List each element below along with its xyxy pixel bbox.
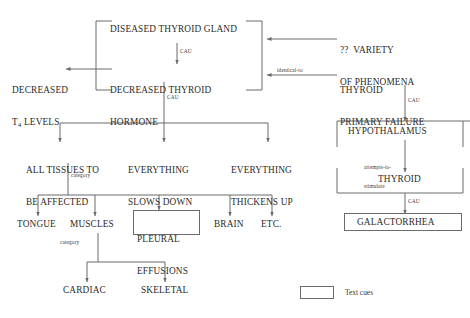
edge-label-attempts-line2: stimulate — [364, 183, 391, 189]
edge-label-category-tissues: category — [71, 172, 90, 178]
node-decreased-thyroid-hormone: DECREASED THYROID HORMONE — [110, 64, 211, 149]
edge-label-category-muscles: category — [60, 239, 79, 245]
node-muscles: MUSCLES — [70, 219, 114, 230]
node-t4-levels-word: LEVELS — [22, 117, 60, 127]
node-tongue: TONGUE — [17, 219, 56, 230]
node-thyroid-failure-line1: THYROID — [340, 85, 425, 96]
node-etc: ETC. — [261, 219, 281, 230]
edge-label-attempts-to-stimulate: attempts-to- stimulate — [364, 152, 391, 202]
node-decreased-t4-line2: T4 LEVELS — [12, 117, 68, 129]
node-all-tissues-line2: BE AFFECTED — [26, 197, 99, 208]
node-pleural-effusions-line2: EFFUSIONS — [137, 266, 188, 277]
node-everything-thickens-line2: THICKENS UP — [231, 197, 293, 208]
node-everything-slows-line1: EVERYTHING — [128, 165, 192, 176]
node-decreased-thyroid-hormone-line2: HORMONE — [110, 117, 211, 128]
node-decreased-t4-levels: DECREASED T4 LEVELS — [12, 64, 68, 150]
edge-label-cau-failure-hypothalamus: CAU — [408, 97, 420, 103]
node-all-tissues-to-be-affected: ALL TISSUES TO BE AFFECTED — [26, 144, 99, 229]
node-galactorrhea: GALACTORRHEA — [357, 217, 435, 228]
node-everything-thickens-line1: EVERYTHING — [231, 165, 293, 176]
edge-label-cau-thyroid-galactorrhea: CAU — [408, 198, 420, 204]
node-everything-thickens-up: EVERYTHING THICKENS UP — [231, 144, 293, 229]
edge-label-cau-hormone-effects: CAU — [167, 94, 179, 100]
edge-label-attempts-line1: attempts-to- — [364, 164, 391, 170]
node-skeletal: SKELETAL — [141, 285, 188, 296]
legend-label-text-cues: Text cues — [345, 288, 373, 297]
legend-box-swatch — [300, 286, 334, 299]
node-variety-line1: ?? VARIETY — [340, 45, 414, 56]
node-cardiac: CARDIAC — [63, 285, 106, 296]
node-hypothalamus: HYPOTHALAMUS — [348, 126, 427, 137]
edge-label-identical-to: identical-to — [277, 67, 303, 73]
node-t4-letter: T — [12, 117, 18, 127]
node-t4-subscript: 4 — [18, 121, 22, 129]
node-everything-slows-line2: SLOWS DOWN — [128, 197, 192, 208]
node-pleural-effusions-line1: PLEURAL — [137, 234, 188, 245]
diagram-canvas: DISEASED THYROID GLAND DECREASED THYROID… — [0, 0, 470, 318]
edge-label-cau-gland-hormone: CAU — [180, 48, 192, 54]
node-decreased-thyroid-hormone-line1: DECREASED THYROID — [110, 85, 211, 96]
node-diseased-thyroid-gland: DISEASED THYROID GLAND — [110, 24, 237, 35]
node-decreased-t4-line1: DECREASED — [12, 85, 68, 96]
node-brain: BRAIN — [214, 219, 244, 230]
